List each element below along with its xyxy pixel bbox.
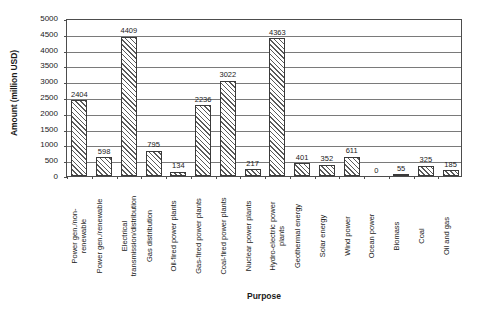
bar <box>71 100 87 176</box>
x-axis-label-text: Solar energy <box>319 180 328 292</box>
bar-group: 352 <box>315 20 340 176</box>
x-axis-label-text: Power gen./renewable <box>96 180 105 292</box>
bar <box>269 38 285 176</box>
x-axis-label-text: Geothermal energy <box>294 180 303 292</box>
bar-value-label: 352 <box>321 155 334 163</box>
x-tick-mark <box>389 176 390 179</box>
y-axis-tick-labels: 0500100015002000250030003500400045005000 <box>26 19 62 177</box>
x-axis-label-text: Oil-fired power plants <box>170 180 179 292</box>
x-axis-label-text: Electrical transmission/distribution <box>121 180 138 292</box>
x-tick-mark <box>117 176 118 179</box>
bar-value-label: 795 <box>147 141 160 149</box>
x-axis-label: Wind power <box>344 180 358 292</box>
x-tick-mark <box>191 176 192 179</box>
x-axis-label: Hydro-electric power plants <box>269 180 283 292</box>
bar-group: 4409 <box>117 20 142 176</box>
y-tick-label: 1000 <box>40 141 58 149</box>
x-axis-label-text: Biomass <box>393 180 402 292</box>
x-axis-label-text: Coal-fired power plants <box>220 180 229 292</box>
bar-group: 401 <box>290 20 315 176</box>
bar-value-label: 4363 <box>269 29 286 37</box>
bar-group: 4363 <box>265 20 290 176</box>
bar-chart: Amount (million USD) 0500100015002000250… <box>0 0 479 317</box>
bar-value-label: 401 <box>296 154 309 162</box>
x-axis-label: Biomass <box>393 180 407 292</box>
x-tick-mark <box>414 176 415 179</box>
x-axis-label: Oil-fired power plants <box>170 180 184 292</box>
x-axis-label: Power gen./renewable <box>96 180 110 292</box>
bar-group: 3022 <box>216 20 241 176</box>
bar-value-label: 3022 <box>220 71 237 79</box>
x-axis-label: Gas-fired power plants <box>195 180 209 292</box>
x-axis-label-text: Gas distribution <box>146 180 155 292</box>
bar-series: 2404598440979513422363022217436340135261… <box>67 20 461 176</box>
bar-group: 55 <box>389 20 414 176</box>
x-axis-label-text: Wind power <box>344 180 353 292</box>
bar <box>319 165 335 176</box>
x-tick-mark <box>265 176 266 179</box>
y-tick-label: 5000 <box>40 15 58 23</box>
bar-value-label: 611 <box>346 147 358 155</box>
bar-group: 598 <box>92 20 117 176</box>
y-tick-label: 3500 <box>40 62 58 70</box>
y-tick-label: 4000 <box>40 47 58 55</box>
x-axis-label: Ocean power <box>368 180 382 292</box>
bar-group: 795 <box>141 20 166 176</box>
x-tick-mark <box>290 176 291 179</box>
bar-group: 2236 <box>191 20 216 176</box>
bar-group: 0 <box>364 20 389 176</box>
x-axis-label-text: Nuclear power plants <box>245 180 254 292</box>
x-tick-mark <box>166 176 167 179</box>
y-tick-label: 500 <box>45 157 58 165</box>
x-axis-title: Purpose <box>66 291 462 301</box>
x-tick-mark <box>92 176 93 179</box>
x-tick-mark <box>364 176 365 179</box>
bar <box>344 157 360 176</box>
bar-value-label: 185 <box>444 161 457 169</box>
y-tick-label: 2500 <box>40 94 58 102</box>
bar <box>195 105 211 176</box>
y-tick-label: 1500 <box>40 126 58 134</box>
x-tick-mark <box>240 176 241 179</box>
x-axis-label: Geothermal energy <box>294 180 308 292</box>
x-axis-label: Oil and gas <box>443 180 457 292</box>
bar-value-label: 598 <box>98 148 111 156</box>
y-axis-title: Amount (million USD) <box>4 0 24 185</box>
x-axis-label-text: Power gen./non- renewable <box>71 180 88 292</box>
x-tick-mark <box>141 176 142 179</box>
x-axis-label-text: Gas-fired power plants <box>195 180 204 292</box>
bar-value-label: 2404 <box>71 91 88 99</box>
bar-value-label: 2236 <box>195 96 212 104</box>
x-axis-label: Solar energy <box>319 180 333 292</box>
bar-value-label: 0 <box>374 167 378 175</box>
x-axis-label-text: Hydro-electric power plants <box>269 180 286 292</box>
x-axis-label: Nuclear power plants <box>245 180 259 292</box>
x-tick-mark <box>216 176 217 179</box>
bar-group: 611 <box>339 20 364 176</box>
bar <box>294 163 310 176</box>
y-tick-label: 4500 <box>40 31 58 39</box>
bar-value-label: 217 <box>246 160 259 168</box>
x-axis-label: Gas distribution <box>146 180 160 292</box>
x-axis-category-labels: Power gen./non- renewablePower gen./rene… <box>66 180 462 292</box>
bar-value-label: 134 <box>172 162 185 170</box>
bar-value-label: 4409 <box>121 27 138 35</box>
x-axis-label-text: Ocean power <box>368 180 377 292</box>
x-axis-label: Electrical transmission/distribution <box>121 180 135 292</box>
bar-value-label: 55 <box>397 165 405 173</box>
bar-value-label: 325 <box>420 156 433 164</box>
bar <box>393 174 409 176</box>
x-axis-label-text: Coal <box>418 180 427 292</box>
bar-group: 217 <box>240 20 265 176</box>
x-axis-label: Power gen./non- renewable <box>71 180 85 292</box>
plot-area: 2404598440979513422363022217436340135261… <box>66 19 462 177</box>
y-tick-label: 3000 <box>40 78 58 86</box>
bar <box>121 37 137 176</box>
bar <box>245 169 261 176</box>
bar <box>146 151 162 176</box>
bar-group: 185 <box>438 20 463 176</box>
x-axis-label-text: Oil and gas <box>443 180 452 292</box>
bar <box>96 157 112 176</box>
x-tick-mark <box>315 176 316 179</box>
x-tick-mark <box>67 176 68 179</box>
